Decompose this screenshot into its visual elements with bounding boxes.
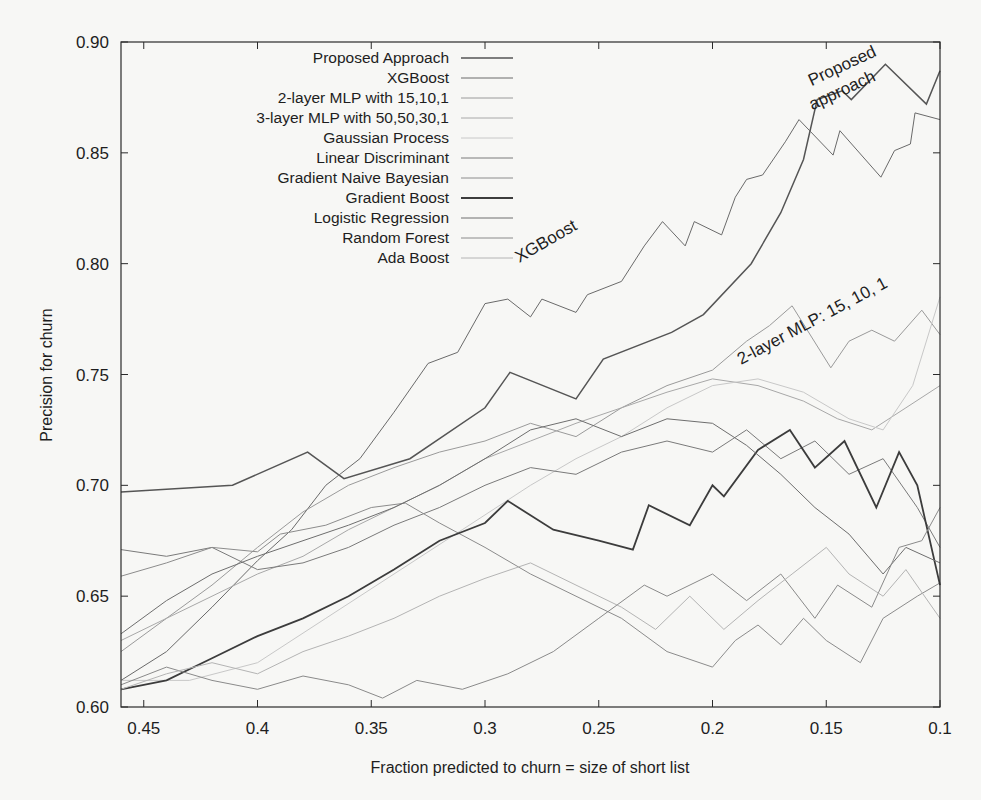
series-line (121, 113, 940, 681)
y-tick-label: 0.85 (76, 144, 109, 163)
plot-frame (121, 42, 940, 707)
legend-label: Random Forest (342, 229, 450, 246)
series-line (121, 64, 940, 492)
legend-item: Gaussian Process (323, 129, 513, 146)
axis-ticks: 0.450.40.350.30.250.20.150.10.600.650.70… (76, 33, 952, 738)
x-tick-label: 0.15 (810, 719, 843, 738)
legend-label: Logistic Regression (314, 209, 449, 226)
series-line (121, 547, 940, 689)
y-tick-label: 0.90 (76, 33, 109, 52)
legend-label: XGBoost (387, 69, 450, 86)
x-tick-label: 0.3 (473, 719, 497, 738)
series-lines (121, 64, 940, 698)
series-line (121, 419, 940, 634)
precision-vs-fraction-chart: 0.450.40.350.30.250.20.150.10.600.650.70… (0, 0, 981, 800)
legend-item: Gradient Boost (346, 189, 513, 206)
y-tick-label: 0.60 (76, 698, 109, 717)
chart-annotation: 2-layer MLP: 15, 10, 1 (734, 273, 891, 368)
legend: Proposed ApproachXGBoost2-layer MLP with… (256, 49, 513, 266)
series-line (121, 430, 940, 570)
legend-item: Gradient Naive Bayesian (278, 169, 513, 186)
series-line (121, 430, 940, 689)
legend-item: Logistic Regression (314, 209, 513, 226)
x-tick-label: 0.4 (246, 719, 270, 738)
y-axis-label: Precision for churn (38, 308, 55, 441)
x-tick-label: 0.45 (127, 719, 160, 738)
legend-item: Linear Discriminant (316, 149, 513, 166)
legend-label: Gradient Naive Bayesian (278, 169, 449, 186)
y-tick-label: 0.65 (76, 587, 109, 606)
legend-label: 3-layer MLP with 50,50,30,1 (256, 109, 449, 126)
x-tick-label: 0.1 (928, 719, 952, 738)
series-line (121, 508, 940, 699)
legend-label: Gradient Boost (346, 189, 450, 206)
legend-item: XGBoost (387, 69, 513, 86)
y-tick-label: 0.80 (76, 255, 109, 274)
series-line (121, 306, 940, 652)
legend-label: Linear Discriminant (316, 149, 449, 166)
legend-label: 2-layer MLP with 15,10,1 (278, 89, 449, 106)
legend-item: 2-layer MLP with 15,10,1 (278, 89, 513, 106)
x-tick-label: 0.35 (355, 719, 388, 738)
y-tick-label: 0.75 (76, 366, 109, 385)
series-line (121, 297, 940, 681)
legend-item: 3-layer MLP with 50,50,30,1 (256, 109, 513, 126)
legend-item: Random Forest (342, 229, 513, 246)
x-tick-label: 0.2 (701, 719, 725, 738)
chart-annotation: XGBoost (512, 216, 581, 267)
x-axis-label: Fraction predicted to churn = size of sh… (371, 759, 690, 776)
legend-label: Ada Boost (377, 249, 449, 266)
legend-item: Proposed Approach (313, 49, 513, 66)
y-tick-label: 0.70 (76, 476, 109, 495)
legend-label: Gaussian Process (323, 129, 449, 146)
annotations: ProposedapproachXGBoost2-layer MLP: 15, … (512, 42, 891, 369)
legend-item: Ada Boost (377, 249, 513, 266)
x-tick-label: 0.25 (582, 719, 615, 738)
legend-label: Proposed Approach (313, 49, 449, 66)
